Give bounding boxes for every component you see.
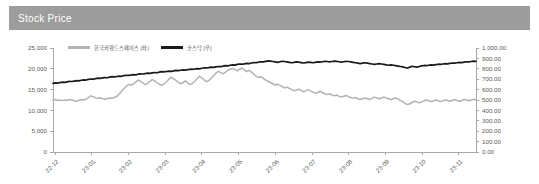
right-axis-tick-label: 300.00 [482,117,501,124]
x-axis-tick-label: 23-01 [80,157,97,174]
left-axis: 05,00010,00015,00020,00025,000 [28,44,53,155]
x-axis-tick-label: 23-11 [448,157,464,173]
page-title: Stock Price [9,13,72,24]
series-line-1 [53,68,476,105]
x-axis-tick-label: 23-10 [411,157,428,174]
x-axis-tick-label: 23-05 [227,157,244,174]
left-axis-tick-label: 20,000 [28,65,47,72]
stock-price-chart-widget: Stock Price 한국카워드스페이스 (좌) 코스닥 (우) 05,000… [0,0,539,184]
x-axis-tick-label: 23-08 [337,157,354,174]
series-lines [53,61,476,105]
x-axis-tick-label: 23-06 [264,157,281,174]
chart-header-bar: Stock Price [9,6,530,30]
right-axis-tick-label: 500.00 [482,96,501,103]
x-axis-tick-label: 22-12 [44,157,61,174]
right-axis-tick-label: 800.00 [482,65,501,72]
right-axis-tick-label: 1,000.00 [482,44,507,51]
x-axis-tick-label: 23-04 [190,157,207,174]
right-axis-tick-label: 200.00 [482,127,501,134]
right-axis: 0.00100.00200.00300.00400.00500.00600.00… [476,44,507,155]
right-axis-tick-label: 0.00 [482,148,495,155]
right-axis-tick-label: 700.00 [482,75,501,82]
left-axis-tick-label: 15,000 [28,86,47,93]
right-axis-tick-label: 600.00 [482,86,501,93]
x-axis-tick-label: 23-07 [301,157,318,174]
x-axis-tick-label: 23-03 [154,157,171,174]
x-axis-tick-label: 23-02 [117,157,134,174]
plot-area: 05,00010,00015,00020,00025,000 0.00100.0… [0,30,539,184]
chart-svg: 05,00010,00015,00020,00025,000 0.00100.0… [0,30,539,184]
left-axis-tick-label: 10,000 [28,107,47,114]
right-axis-tick-label: 100.00 [482,138,501,145]
left-axis-tick-label: 25,000 [28,44,47,51]
right-axis-tick-label: 400.00 [482,107,501,114]
right-axis-tick-label: 900.00 [482,55,501,62]
x-axis: 22-1223-0123-0223-0323-0423-0523-0623-07… [44,152,476,174]
left-axis-tick-label: 5,000 [32,127,48,134]
x-axis-tick-label: 23-09 [374,157,391,174]
left-axis-tick-label: 0 [44,148,48,155]
